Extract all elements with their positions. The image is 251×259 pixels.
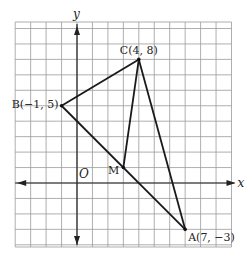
origin-label: O xyxy=(79,167,89,181)
point-M xyxy=(122,166,126,170)
y-axis-label: y xyxy=(72,7,80,21)
segment-BC xyxy=(62,59,139,105)
point-label-A: A(7, −3) xyxy=(187,231,235,244)
segment-CM xyxy=(123,59,138,167)
point-label-M: M xyxy=(108,164,119,177)
x-axis-arrow-left xyxy=(17,180,26,186)
point-label-B: B(−1, 5) xyxy=(12,98,59,111)
x-axis-arrow-right xyxy=(227,180,236,186)
y-axis-arrow-top xyxy=(74,26,80,35)
y-axis-arrow-bottom xyxy=(74,236,80,245)
segment-CA xyxy=(139,59,185,229)
point-label-C: C(4, 8) xyxy=(120,44,158,57)
point-B xyxy=(60,104,64,108)
x-axis-label: x xyxy=(238,176,245,190)
point-A xyxy=(183,228,187,232)
coordinate-plane: x y O A(7, −3)B(−1, 5)C(4, 8)M xyxy=(0,0,251,259)
point-C xyxy=(137,58,141,62)
